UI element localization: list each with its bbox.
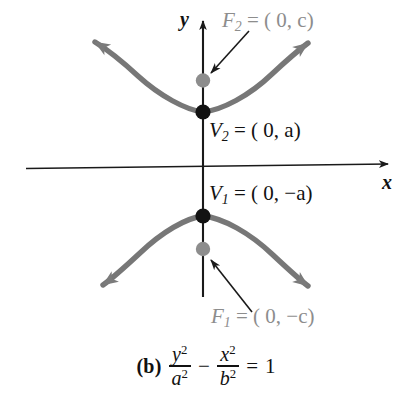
denominator-b-base: b	[220, 367, 230, 389]
focus-label-f2-coords: = ( 0, c)	[247, 8, 314, 32]
focus-label-f1: F1 = ( 0, −c)	[211, 306, 315, 330]
vertex-label-v2-coords: = ( 0, a)	[234, 118, 301, 142]
numerator-y-exponent: 2	[181, 343, 187, 357]
numerator-x-exponent: 2	[229, 343, 235, 357]
focus-label-f1-subscript: 1	[224, 315, 231, 330]
minus-operator: −	[198, 354, 210, 379]
focus-label-f1-base: F	[211, 304, 224, 328]
focus-point-f2	[196, 73, 210, 87]
fraction-denominator-a: a2	[169, 368, 191, 388]
numerator-x-base: x	[220, 343, 229, 365]
hyperbola-lower-branch-left	[103, 216, 203, 285]
hyperbola-upper-branch-right	[203, 43, 308, 112]
right-hand-side-value: 1	[265, 354, 276, 379]
equals-sign: =	[246, 354, 258, 379]
hyperbola-lower-branch-right	[203, 216, 308, 286]
vertex-label-v1: V1 = ( 0, −a)	[209, 183, 313, 207]
vertex-label-v1-coords: = ( 0, −a)	[234, 181, 313, 205]
vertex-label-v2-subscript: 2	[222, 129, 229, 144]
numerator-y-base: y	[172, 343, 181, 365]
x-axis-label: x	[382, 172, 392, 192]
focus-label-f2: F2 = ( 0, c)	[222, 10, 314, 34]
fraction-y2-over-a2: y2 a2	[169, 344, 191, 388]
equation-caption: (b) y2 a2 − x2 b2 = 1	[0, 344, 412, 388]
focus-label-f1-coords: = ( 0, −c)	[236, 304, 315, 328]
x-axis	[26, 164, 388, 169]
focus-label-f2-base: F	[222, 8, 235, 32]
f2-leader-arrow	[211, 31, 249, 73]
vertex-point-v1	[195, 208, 210, 223]
denominator-a-base: a	[172, 367, 182, 389]
focus-point-f1	[196, 242, 210, 256]
fraction-numerator-y: y2	[169, 344, 190, 364]
y-axis-label: y	[180, 9, 189, 29]
fraction-numerator-x: x2	[217, 344, 238, 364]
focus-label-f2-subscript: 2	[235, 19, 242, 34]
fraction-x2-over-b2: x2 b2	[217, 344, 239, 388]
vertex-label-v2-base: V	[209, 118, 222, 142]
hyperbola-figure: y x F2 = ( 0, c) V2 = ( 0, a) V1 = ( 0, …	[0, 0, 412, 414]
hyperbola-upper-branch-left	[95, 42, 203, 112]
figure-part-tag: (b)	[136, 355, 161, 378]
vertex-label-v1-base: V	[209, 181, 222, 205]
denominator-a-exponent: 2	[182, 367, 188, 381]
vertex-label-v1-subscript: 1	[222, 192, 229, 207]
vertex-label-v2: V2 = ( 0, a)	[209, 120, 301, 144]
denominator-b-exponent: 2	[230, 367, 236, 381]
fraction-denominator-b: b2	[217, 368, 239, 388]
